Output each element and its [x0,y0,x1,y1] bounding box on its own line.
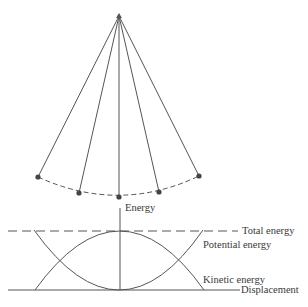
pivot-point [116,13,122,18]
displacement-axis-label: Displacement [241,285,299,296]
total-energy-label: Total energy [242,226,294,237]
pendulum-string [119,16,199,176]
pendulum-bob [116,194,121,199]
pendulum-bob [196,173,201,178]
pendulum-bob [76,190,81,195]
diagram-canvas [0,0,308,307]
pendulum-string [38,16,119,177]
pendulum-string [119,16,159,192]
pendulum-bob [156,189,161,194]
pendulum-bob [35,174,40,179]
potential-energy-label: Potential energy [203,240,271,251]
potential-energy-curve [34,230,203,290]
energy-axis-label: Energy [125,203,155,214]
pendulum-string [79,16,119,193]
